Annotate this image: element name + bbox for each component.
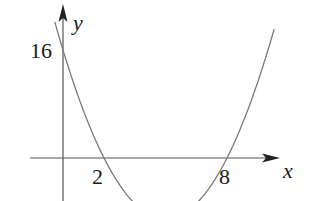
parabola-chart: y x 16 2 8 (0, 0, 312, 201)
y-intercept-label: 16 (30, 38, 52, 63)
y-axis-label: y (71, 10, 83, 35)
x-axis-label: x (282, 158, 293, 183)
parabola-curve (55, 22, 274, 201)
root-right-label: 8 (219, 164, 230, 189)
root-left-label: 2 (92, 164, 103, 189)
